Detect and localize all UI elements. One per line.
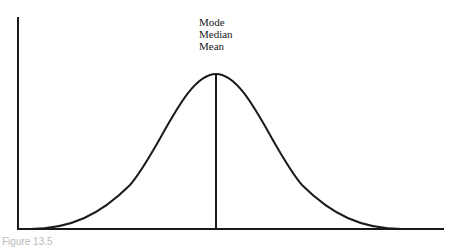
median-label: Median [199, 28, 233, 40]
mode-label: Mode [199, 16, 225, 28]
figure-caption: Figure 13.5 [2, 236, 53, 247]
mean-label: Mean [199, 40, 224, 52]
